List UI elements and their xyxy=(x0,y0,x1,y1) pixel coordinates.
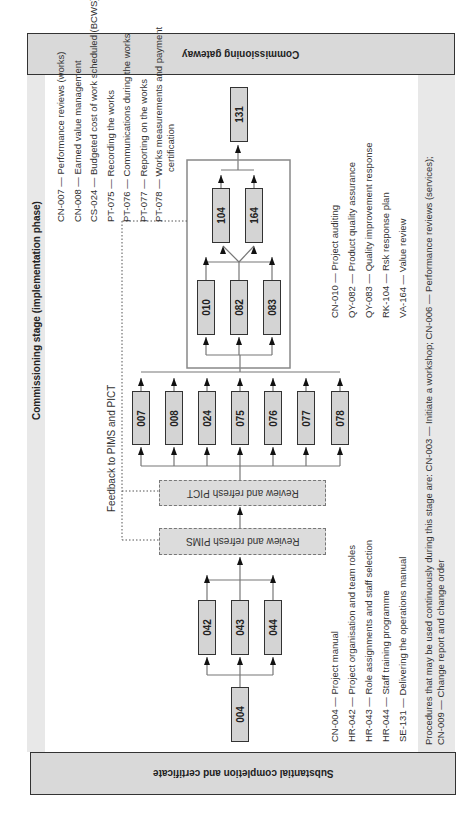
review-refresh-pict-box: Review and refresh PICT xyxy=(159,480,326,506)
node-007: 007 xyxy=(132,391,150,445)
legend-item: CN-004 — Project manual xyxy=(326,540,343,742)
node-044: 044 xyxy=(264,600,282,655)
node-010: 010 xyxy=(197,280,215,335)
legend-item: PT-078 — Works measurements and payment xyxy=(152,0,166,222)
feedback-label: Feedback to PIMS and PICT xyxy=(107,385,117,512)
legend-bottom: CN-004 — Project manual HR-042 — Project… xyxy=(326,540,411,742)
legend-mid: CN-010 — Project auditing QY-082 — Produ… xyxy=(326,143,411,318)
legend-item: RK-104 — Rsk response plan xyxy=(377,143,394,318)
node-082: 082 xyxy=(230,280,248,335)
legend-item: PT-077 — Reporting on the works xyxy=(136,0,153,222)
node-164: 164 xyxy=(245,188,263,243)
node-042: 042 xyxy=(198,600,216,655)
legend-item: QY-083 — Quality improvement response xyxy=(360,143,377,318)
review-refresh-pims-box: Review and refresh PIMS xyxy=(159,528,326,555)
legend-item: HR-042 — Project organisation and team r… xyxy=(343,540,360,742)
legend-item: QY-082 — Product quality assurance xyxy=(343,143,360,318)
node-043: 043 xyxy=(231,600,249,655)
legend-item: CN-008 — Earned value management xyxy=(70,0,87,222)
legend-item: VA-164 — Value review xyxy=(394,143,411,318)
node-008: 008 xyxy=(165,391,183,445)
node-078: 078 xyxy=(331,391,349,445)
node-076: 076 xyxy=(264,391,282,445)
legend-item: PT-076 — Communications during the works xyxy=(119,0,136,222)
legend-item: CS-024 — Budgeted cost of work scheduled… xyxy=(86,0,103,222)
node-131: 131 xyxy=(230,87,248,142)
review-refresh-pict-label: Review and refresh PICT xyxy=(187,488,299,499)
legend-item: PT-075 — Recording the works xyxy=(103,0,120,222)
legend-item: CN-010 — Project auditing xyxy=(326,143,343,318)
node-077: 077 xyxy=(297,391,315,445)
legend-item: SE-131 — Delivering the operations manua… xyxy=(394,540,411,742)
node-004: 004 xyxy=(231,687,249,742)
legend-top: CN-007 — Performance reviews (works) CN-… xyxy=(53,0,176,222)
legend-item: HR-044 — Staff training programme xyxy=(377,540,394,742)
legend-item: HR-043 — Role assignments and staff sele… xyxy=(360,540,377,742)
node-083: 083 xyxy=(263,280,281,335)
legend-item: certification xyxy=(166,0,176,222)
node-104: 104 xyxy=(212,188,230,243)
node-024: 024 xyxy=(198,391,216,445)
node-075: 075 xyxy=(231,391,249,445)
legend-item: CN-007 — Performance reviews (works) xyxy=(53,0,70,222)
review-refresh-pims-label: Review and refresh PIMS xyxy=(186,536,299,547)
